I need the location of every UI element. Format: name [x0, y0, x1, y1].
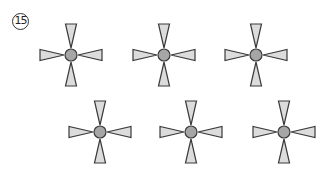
triangle-right-icon: [198, 127, 222, 138]
triangle-left-icon: [133, 50, 157, 61]
triangle-right-icon: [171, 50, 195, 61]
triangle-left-icon: [253, 127, 277, 138]
center-circle-icon: [185, 126, 197, 138]
center-circle-icon: [278, 126, 290, 138]
triangle-bottom-icon: [95, 139, 106, 163]
center-circle-icon: [94, 126, 106, 138]
triangle-top-icon: [279, 101, 290, 125]
pinwheel-figure-4: [69, 101, 131, 163]
triangle-bottom-icon: [186, 139, 197, 163]
triangle-right-icon: [107, 127, 131, 138]
pinwheel-figure-1: [40, 24, 102, 86]
pinwheel-figure-5: [160, 101, 222, 163]
triangle-right-icon: [263, 50, 287, 61]
pinwheel-figure-6: [253, 101, 315, 163]
triangle-left-icon: [160, 127, 184, 138]
center-circle-icon: [250, 49, 262, 61]
triangle-top-icon: [251, 24, 262, 48]
triangle-left-icon: [40, 50, 64, 61]
triangle-bottom-icon: [251, 62, 262, 86]
pinwheel-figure-3: [225, 24, 287, 86]
triangle-left-icon: [225, 50, 249, 61]
triangle-top-icon: [186, 101, 197, 125]
triangle-top-icon: [159, 24, 170, 48]
figures-canvas: [0, 0, 330, 188]
triangle-top-icon: [66, 24, 77, 48]
triangle-top-icon: [95, 101, 106, 125]
triangle-bottom-icon: [279, 139, 290, 163]
triangle-right-icon: [291, 127, 315, 138]
triangle-bottom-icon: [159, 62, 170, 86]
triangle-right-icon: [78, 50, 102, 61]
triangle-left-icon: [69, 127, 93, 138]
center-circle-icon: [158, 49, 170, 61]
triangle-bottom-icon: [66, 62, 77, 86]
center-circle-icon: [65, 49, 77, 61]
pinwheel-figure-2: [133, 24, 195, 86]
